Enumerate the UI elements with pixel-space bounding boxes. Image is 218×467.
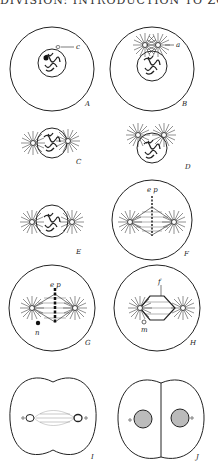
figure-label-b: B: [182, 100, 187, 108]
annotation-f: f: [158, 278, 161, 286]
figure-label-g: G: [85, 339, 91, 347]
figure-a: [10, 27, 94, 111]
figure-b: [110, 27, 194, 111]
annotation-ep-g: e p: [50, 281, 61, 289]
figure-label-h: H: [190, 339, 196, 347]
mitosis-illustration: [0, 0, 218, 467]
figure-label-e: E: [76, 248, 81, 256]
figure-i: [10, 378, 96, 455]
annotation-ep-f: e p: [147, 186, 158, 194]
figure-c: [21, 128, 80, 158]
figure-label-c: C: [76, 158, 81, 166]
figure-label-d: D: [185, 163, 191, 171]
figure-j: [118, 380, 204, 458]
annotation-a: a: [176, 41, 180, 49]
figure-label-i: I: [91, 453, 94, 461]
annotation-n: n: [35, 329, 40, 337]
figure-e: [20, 205, 84, 237]
annotation-c: c: [76, 43, 80, 51]
figure-g: [9, 265, 95, 351]
figure-h: [114, 265, 200, 351]
annotation-m: m: [141, 326, 148, 334]
figure-label-a: A: [85, 100, 90, 108]
figure-label-f: F: [184, 250, 189, 258]
figure-label-j: J: [196, 453, 199, 461]
figure-d: [126, 123, 176, 163]
